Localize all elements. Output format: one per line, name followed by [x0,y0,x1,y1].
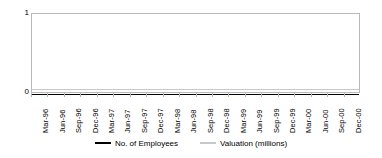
x-axis-tick-label: Mar-98 [174,109,182,133]
x-axis-tick-mark [163,93,164,97]
x-axis-tick-label: Sep-98 [207,108,215,133]
x-axis-tick-mark [80,93,81,97]
x-axis-tick-label: Mar-97 [108,109,116,133]
x-axis-tick-label: Sep-00 [338,108,346,133]
y-axis-tick-label-min: 0 [3,87,29,96]
x-axis-tick-label: Jun-97 [124,109,132,133]
x-axis-tick-label: Sep-99 [273,108,281,133]
x-axis-tick-label: Mar-96 [42,109,50,133]
plot-area [31,13,360,93]
y-axis: 1 0 [0,0,29,100]
x-axis-tick-mark [278,93,279,97]
x-axis-tick-label: Jun-96 [59,109,67,133]
legend-swatch-icon [200,142,216,144]
x-axis-tick-mark [31,93,32,97]
legend-item-0[interactable]: No. of Employees [95,139,178,148]
x-axis-tick-mark [245,93,246,97]
x-axis-tick-label: Sep-96 [75,108,83,133]
x-axis-tick-label: Dec-96 [92,108,100,133]
x-axis-tick-label: Dec-99 [289,108,297,133]
x-axis-tick-label: Dec-98 [223,108,231,133]
x-axis-tick-mark [113,93,114,97]
y-axis-tick-label-max: 1 [3,8,29,17]
x-axis-tick-mark [179,93,180,97]
line-chart: 1 0 Mar-96Jun-96Sep-96Dec-96Mar-97Jun-97… [0,0,382,158]
x-axis-tick-mark [344,93,345,97]
x-axis-tick-label: Sep-97 [141,108,149,133]
legend-label: Valuation (millions) [220,139,287,148]
series-line-1 [32,89,359,90]
x-axis-tick-label: Jun-98 [190,109,198,133]
legend-label: No. of Employees [115,139,178,148]
x-axis-tick-label: Dec-00 [355,108,363,133]
x-axis-tick-mark [228,93,229,97]
x-axis-tick-mark [212,93,213,97]
x-axis-tick-label: Mar-99 [240,109,248,133]
x-axis-tick-label: Mar-00 [305,109,313,133]
x-axis-tick-mark [97,93,98,97]
x-axis-tick-label: Jun-00 [322,109,330,133]
x-axis-tick-mark [130,93,131,97]
x-axis-tick-label: Jun-99 [256,109,264,133]
x-axis-tick-mark [64,93,65,97]
chart-legend: No. of EmployeesValuation (millions) [0,136,382,150]
x-axis-tick-mark [47,93,48,97]
x-axis-tick-mark [196,93,197,97]
legend-item-1[interactable]: Valuation (millions) [200,139,287,148]
x-axis-tick-mark [146,93,147,97]
legend-swatch-icon [95,142,111,144]
x-axis-tick-mark [294,93,295,97]
x-axis-tick-mark [327,93,328,97]
x-axis-tick-mark [311,93,312,97]
x-axis-tick-mark [261,93,262,97]
x-axis-tick-label: Dec-97 [157,108,165,133]
